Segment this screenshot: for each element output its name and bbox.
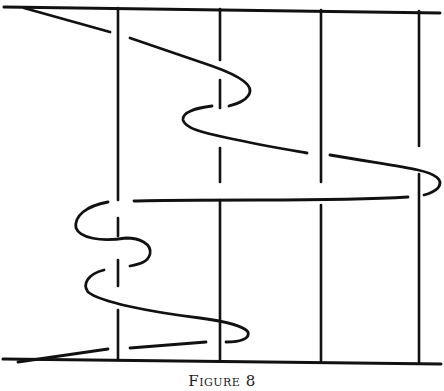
bottom-bar bbox=[3, 359, 441, 364]
top-bar bbox=[4, 7, 440, 13]
winding-strand bbox=[18, 8, 440, 362]
braid-diagram bbox=[0, 0, 444, 391]
figure-caption: Figure 8 bbox=[0, 372, 444, 390]
